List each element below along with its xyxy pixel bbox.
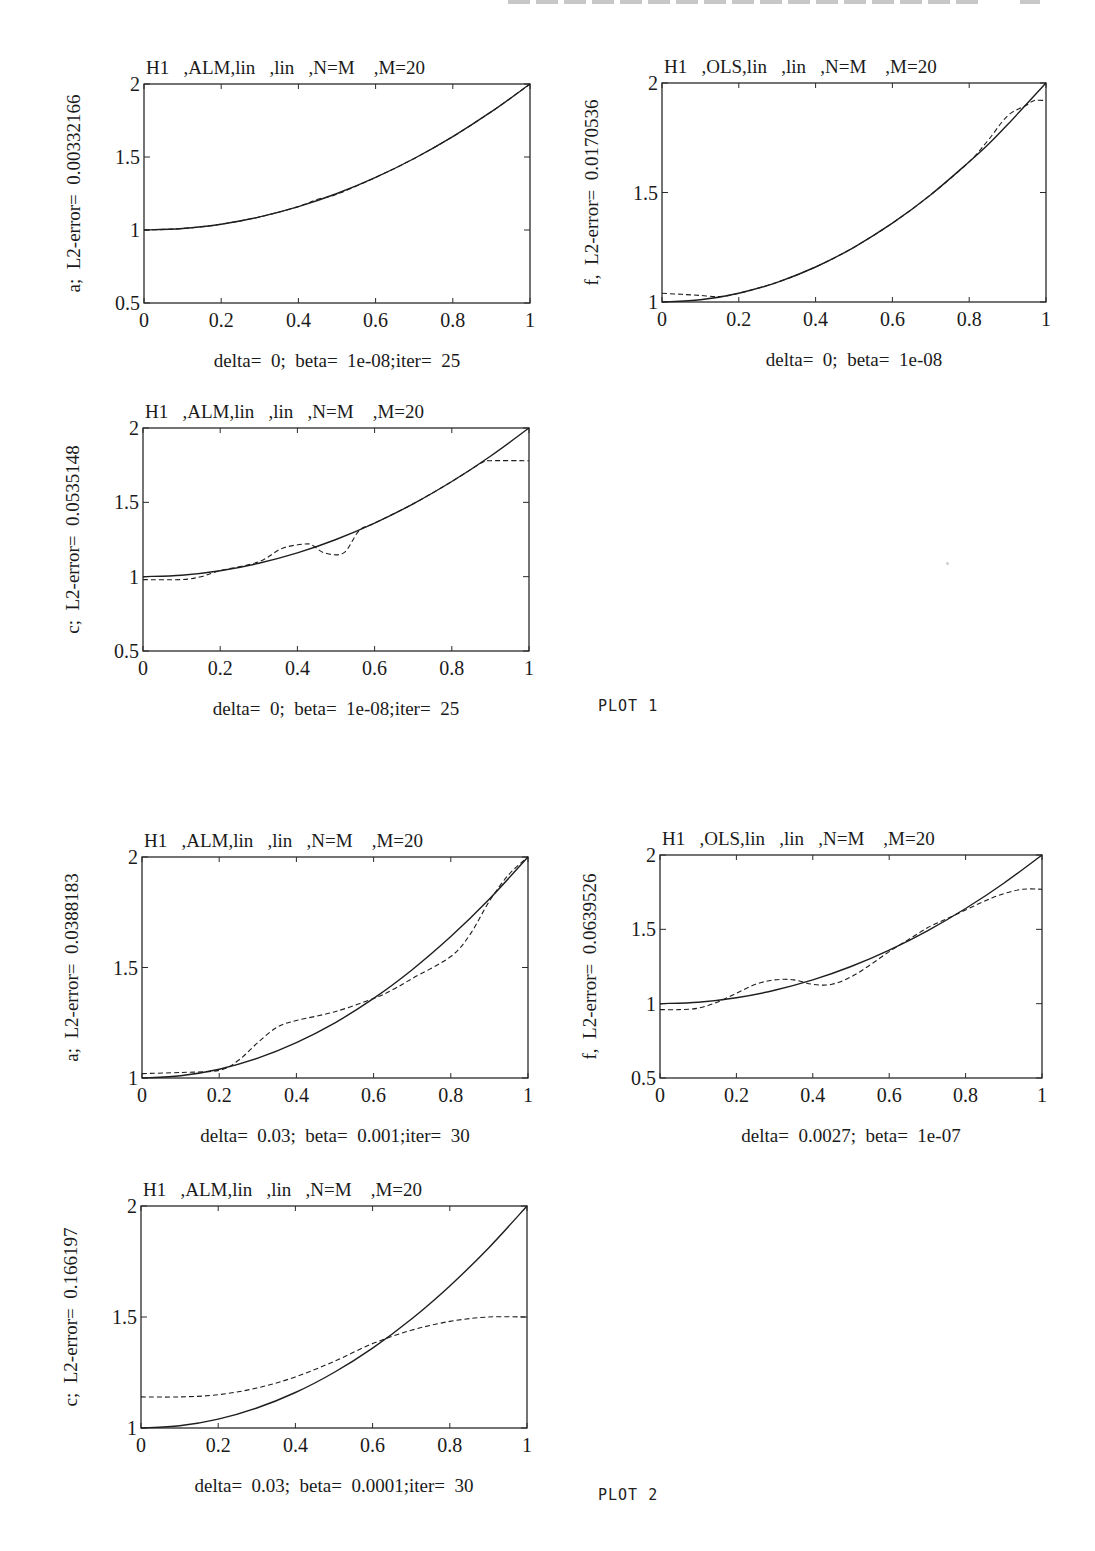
x-tick-label: 0.8	[957, 308, 982, 330]
y-tick-label: 2	[130, 73, 140, 95]
y-tick-label: 1.5	[633, 182, 658, 204]
chart-plot2-f: H1 ,OLS,lin ,lin ,N=M ,M=2000.20.40.60.8…	[579, 828, 1047, 1146]
reconstruction-curve	[141, 1317, 527, 1397]
plot-frame	[662, 83, 1046, 302]
x-tick-label: 0	[657, 308, 667, 330]
y-axis-label: f, L2-error= 0.0170536	[581, 100, 602, 286]
x-tick-label: 0	[137, 1084, 147, 1106]
figure-canvas: H1 ,ALM,lin ,lin ,N=M ,M=2000.20.40.60.8…	[0, 0, 1095, 1551]
y-axis-label: f, L2-error= 0.0639526	[579, 874, 600, 1060]
x-tick-label: 0.2	[206, 1434, 231, 1456]
x-tick-label: 0.8	[953, 1084, 978, 1106]
y-tick-label: 1	[130, 219, 140, 241]
x-tick-label: 0.8	[440, 309, 465, 331]
x-tick-label: 0.4	[286, 309, 311, 331]
plot-title: H1 ,OLS,lin ,lin ,N=M ,M=20	[664, 56, 937, 77]
x-tick-label: 1	[525, 309, 535, 331]
chart-plot2-a: H1 ,ALM,lin ,lin ,N=M ,M=2000.20.40.60.8…	[61, 830, 533, 1146]
y-axis-label: c; L2-error= 0.0535148	[62, 445, 83, 634]
plot-title: H1 ,ALM,lin ,lin ,N=M ,M=20	[145, 401, 424, 422]
y-tick-label: 1	[127, 1417, 137, 1439]
y-tick-label: 2	[129, 417, 139, 439]
x-tick-label: 0.6	[880, 308, 905, 330]
x-tick-label: 0.8	[437, 1434, 462, 1456]
chart-plot1-f: H1 ,OLS,lin ,lin ,N=M ,M=2000.20.40.60.8…	[581, 56, 1051, 370]
x-tick-label: 1	[1041, 308, 1051, 330]
plot-number-label: PLOT 2	[598, 1486, 658, 1504]
x-tick-label: 0.8	[438, 1084, 463, 1106]
y-tick-label: 2	[128, 846, 138, 868]
x-axis-label: delta= 0.0027; beta= 1e-07	[741, 1125, 960, 1146]
plot-number-label: PLOT 1	[598, 697, 658, 715]
x-tick-label: 0.4	[284, 1084, 309, 1106]
x-tick-label: 0.2	[209, 309, 234, 331]
plot-title: H1 ,OLS,lin ,lin ,N=M ,M=20	[662, 828, 935, 849]
x-tick-label: 0	[136, 1434, 146, 1456]
plot-title: H1 ,ALM,lin ,lin ,N=M ,M=20	[146, 57, 425, 78]
reconstruction-curve	[143, 460, 529, 580]
y-tick-label: 1	[128, 1067, 138, 1089]
y-axis-label: a; L2-error= 0.00332166	[63, 94, 84, 292]
x-tick-label: 0	[655, 1084, 665, 1106]
x-tick-label: 1	[1037, 1084, 1047, 1106]
reconstruction-curve	[142, 857, 528, 1074]
reconstruction-curve	[144, 84, 530, 230]
y-tick-label: 1	[648, 291, 658, 313]
x-axis-label: delta= 0.03; beta= 0.001;iter= 30	[200, 1125, 470, 1146]
y-tick-label: 2	[646, 844, 656, 866]
y-tick-label: 0.5	[631, 1067, 656, 1089]
exact-curve	[141, 1206, 527, 1428]
x-tick-label: 0.4	[283, 1434, 308, 1456]
y-tick-label: 1	[646, 993, 656, 1015]
x-tick-label: 0.8	[439, 657, 464, 679]
x-tick-label: 0.6	[877, 1084, 902, 1106]
y-tick-label: 1.5	[631, 918, 656, 940]
x-tick-label: 0	[138, 657, 148, 679]
plot-title: H1 ,ALM,lin ,lin ,N=M ,M=20	[143, 1179, 422, 1200]
x-tick-label: 0.2	[726, 308, 751, 330]
x-tick-label: 0	[139, 309, 149, 331]
exact-curve	[142, 857, 528, 1078]
x-tick-label: 1	[523, 1084, 533, 1106]
y-tick-label: 1.5	[113, 957, 138, 979]
chart-plot1-a: H1 ,ALM,lin ,lin ,N=M ,M=2000.20.40.60.8…	[63, 57, 535, 371]
y-tick-label: 1	[129, 566, 139, 588]
plot-frame	[142, 857, 528, 1078]
x-axis-label: delta= 0; beta= 1e-08	[766, 349, 943, 370]
x-tick-label: 0.2	[724, 1084, 749, 1106]
plot-frame	[141, 1206, 527, 1428]
x-tick-label: 0.6	[361, 1084, 386, 1106]
exact-curve	[144, 84, 530, 230]
x-axis-label: delta= 0.03; beta= 0.0001;iter= 30	[194, 1475, 473, 1496]
y-axis-label: c; L2-error= 0.166197	[60, 1227, 81, 1406]
x-axis-label: delta= 0; beta= 1e-08;iter= 25	[213, 698, 459, 719]
x-tick-label: 0.6	[360, 1434, 385, 1456]
x-tick-label: 0.4	[285, 657, 310, 679]
y-tick-label: 1.5	[112, 1306, 137, 1328]
y-tick-label: 2	[648, 72, 658, 94]
x-tick-label: 0.2	[208, 657, 233, 679]
x-tick-label: 0.4	[803, 308, 828, 330]
y-tick-label: 1.5	[114, 491, 139, 513]
y-tick-label: 0.5	[115, 292, 140, 314]
reconstruction-curve	[662, 100, 1046, 296]
x-tick-label: 0.4	[800, 1084, 825, 1106]
y-tick-label: 2	[127, 1195, 137, 1217]
x-tick-label: 1	[522, 1434, 532, 1456]
plot-title: H1 ,ALM,lin ,lin ,N=M ,M=20	[144, 830, 423, 851]
y-axis-label: a; L2-error= 0.0388183	[61, 873, 82, 1062]
chart-plot1-c: H1 ,ALM,lin ,lin ,N=M ,M=2000.20.40.60.8…	[62, 401, 534, 719]
x-tick-label: 1	[524, 657, 534, 679]
x-tick-label: 0.2	[207, 1084, 232, 1106]
x-axis-label: delta= 0; beta= 1e-08;iter= 25	[214, 350, 460, 371]
x-tick-label: 0.6	[362, 657, 387, 679]
chart-plot2-c: H1 ,ALM,lin ,lin ,N=M ,M=2000.20.40.60.8…	[60, 1179, 532, 1496]
reconstruction-curve	[660, 889, 1042, 1010]
x-tick-label: 0.6	[363, 309, 388, 331]
y-tick-label: 1.5	[115, 146, 140, 168]
exact-curve	[660, 855, 1042, 1004]
exact-curve	[662, 83, 1046, 302]
y-tick-label: 0.5	[114, 640, 139, 662]
